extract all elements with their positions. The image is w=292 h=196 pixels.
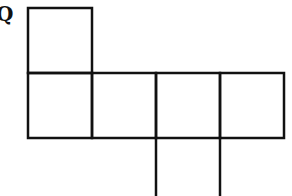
square-top <box>28 8 92 73</box>
square-middle-1 <box>28 73 92 138</box>
square-middle-4 <box>220 73 284 138</box>
square-middle-2 <box>92 73 156 138</box>
square-middle-3 <box>156 73 220 138</box>
cube-net-diagram <box>0 0 292 196</box>
